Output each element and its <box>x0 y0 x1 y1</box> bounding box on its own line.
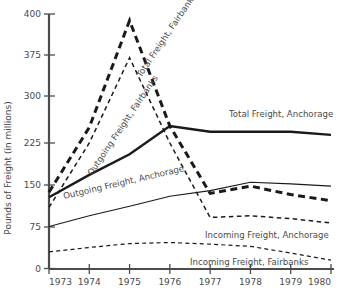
x-tick-label: 1979 <box>279 277 302 287</box>
x-tick-label: 1975 <box>118 277 141 287</box>
x-axis: 19731974197519761977197819791980 <box>49 264 334 287</box>
x-tick-label: 1980 <box>308 277 331 287</box>
series-annotation-label: Outgoing Freight, Fairbanks <box>85 73 160 177</box>
y-tick-label: 400 <box>24 9 41 19</box>
y-tick-label: 150 <box>24 180 41 190</box>
y-axis-tick-labels: 075150225300375400 <box>24 9 41 274</box>
y-tick-label: 300 <box>24 91 41 101</box>
y-axis-title: Pounds of Freight (in millions) <box>3 101 13 234</box>
series-annotation-label: Incoming Freight, Anchorage <box>205 230 329 240</box>
freight-line-chart: 075150225300375400 197319741975197619771… <box>0 0 344 293</box>
series-annotation-label: Total Freight, Anchorage <box>228 109 333 119</box>
y-tick-label: 75 <box>30 222 41 232</box>
series-annotation-label: Outgoing Freight, Anchorage <box>62 163 185 201</box>
chart-canvas: 075150225300375400 197319741975197619771… <box>0 0 344 293</box>
data-series-group <box>49 21 331 261</box>
x-tick-label: 1973 <box>49 277 72 287</box>
series-annotation-label: Incoming Freight, Fairbanks <box>190 257 309 267</box>
y-tick-label: 225 <box>24 138 41 148</box>
series-annotation-label: Total Freight, Fairbanks <box>134 0 198 80</box>
y-tick-label: 375 <box>24 50 41 60</box>
y-tick-label: 0 <box>35 264 41 274</box>
x-axis-tick-labels: 19731974197519761977197819791980 <box>49 277 331 287</box>
x-tick-label: 1978 <box>239 277 262 287</box>
series-annotations: Total Freight, AnchorageOutgoing Freight… <box>62 0 333 267</box>
y-axis: 075150225300375400 <box>24 9 55 274</box>
x-tick-label: 1976 <box>158 277 181 287</box>
x-tick-label: 1977 <box>199 277 222 287</box>
series-line <box>49 58 331 223</box>
x-tick-label: 1974 <box>78 277 101 287</box>
